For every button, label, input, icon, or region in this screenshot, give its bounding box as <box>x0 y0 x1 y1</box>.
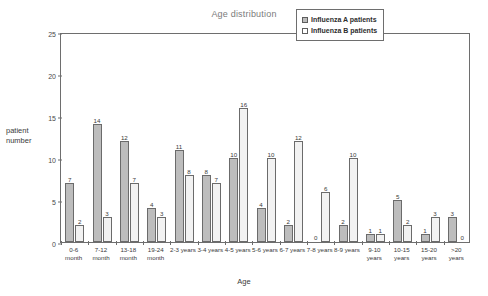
bar-influenza-b: 7 <box>130 183 139 242</box>
bar-influenza-a: 1 <box>366 234 375 242</box>
bar-value-label: 11 <box>176 143 182 150</box>
bar-influenza-a: 12 <box>120 141 129 242</box>
y-axis-tick-mark <box>58 160 62 161</box>
bar-influenza-b: 2 <box>75 225 84 242</box>
bar-value-label: 14 <box>94 117 101 124</box>
bar-influenza-a: 4 <box>147 208 156 242</box>
bar-value-label: 5 <box>396 193 399 200</box>
x-axis-category-label: 8-9 years <box>333 246 360 254</box>
x-axis-tick-mark <box>334 241 335 245</box>
x-axis-label: Age <box>0 277 488 286</box>
y-axis-label: patient number <box>6 126 54 146</box>
bar-value-label: 7 <box>133 176 136 183</box>
x-axis-category-label: 3-4 years <box>197 246 224 254</box>
bar-value-label: 7 <box>215 176 218 183</box>
bar-influenza-a: 8 <box>202 175 211 242</box>
bar-influenza-b: 10 <box>267 158 276 242</box>
bar-value-label: 2 <box>341 218 344 225</box>
legend-item-label: Influenza A patients <box>311 16 377 23</box>
age-distribution-chart: Age distribution patient number 05101520… <box>0 0 488 296</box>
bar-value-label: 16 <box>240 101 247 108</box>
x-axis-category-label: 4-5 years <box>224 246 251 254</box>
bar-value-label: 2 <box>406 218 409 225</box>
bar-value-label: 2 <box>287 218 290 225</box>
bar-value-label: 12 <box>295 134 302 141</box>
bar-value-label: 3 <box>160 210 163 217</box>
bar-value-label: 8 <box>205 168 208 175</box>
x-axis-tick-mark <box>88 241 89 245</box>
bar-influenza-b: 2 <box>403 225 412 242</box>
bar-influenza-a: 2 <box>284 225 293 242</box>
bar-influenza-b: 3 <box>431 217 440 242</box>
bar-value-label: 10 <box>268 151 275 158</box>
y-axis-tick-mark <box>58 34 62 35</box>
bar-value-label: 0 <box>314 234 317 241</box>
bar-value-label: 10 <box>350 151 357 158</box>
x-axis-tick-mark <box>362 241 363 245</box>
bar-value-label: 3 <box>433 210 436 217</box>
x-axis-tick-mark <box>252 241 253 245</box>
bar-value-label: 1 <box>369 227 372 234</box>
x-axis-category-label: 9-10 years <box>361 246 388 261</box>
x-axis-category-label: 5-6 years <box>251 246 278 254</box>
bar-value-label: 2 <box>78 218 81 225</box>
chart-title: Age distribution <box>0 9 488 19</box>
bar-influenza-a: 7 <box>65 183 74 242</box>
bar-influenza-b: 3 <box>103 217 112 242</box>
x-axis-category-label: 7-8 years <box>306 246 333 254</box>
bar-value-label: 7 <box>68 176 71 183</box>
bar-influenza-a: 4 <box>257 208 266 242</box>
x-axis-category-label: 13-18 month <box>115 246 142 261</box>
bar-value-label: 0 <box>461 234 464 241</box>
bar-value-label: 4 <box>259 201 262 208</box>
x-axis-tick-mark <box>225 241 226 245</box>
bar-value-label: 3 <box>105 210 108 217</box>
x-axis-tick-mark <box>61 241 62 245</box>
bar-value-label: 10 <box>230 151 237 158</box>
x-axis-tick-mark <box>389 241 390 245</box>
x-axis-tick-mark <box>170 241 171 245</box>
bar-influenza-a: 14 <box>93 124 102 242</box>
bar-value-label: 12 <box>121 134 128 141</box>
bar-value-label: 1 <box>379 227 382 234</box>
x-axis-tick-mark <box>116 241 117 245</box>
bar-influenza-a: 11 <box>175 150 184 242</box>
x-axis-tick-mark <box>416 241 417 245</box>
y-axis-tick-mark <box>58 202 62 203</box>
legend-item: Influenza B patients <box>302 25 377 36</box>
y-axis-tick-mark <box>58 76 62 77</box>
legend-item: Influenza A patients <box>302 14 377 25</box>
plot-area: 0510152025721431274311887101641021206210… <box>60 33 470 243</box>
bar-influenza-a: 5 <box>393 200 402 242</box>
bar-influenza-b: 1 <box>376 234 385 242</box>
bar-value-label: 3 <box>451 210 454 217</box>
x-axis-tick-mark <box>198 241 199 245</box>
bar-influenza-b: 16 <box>239 108 248 242</box>
x-axis-category-label: 7-12 month <box>87 246 114 261</box>
chart-legend: Influenza A patientsInfluenza B patients <box>296 9 384 41</box>
bar-influenza-a: 1 <box>421 234 430 242</box>
bar-value-label: 4 <box>150 201 153 208</box>
x-axis-category-label: 19-24 month <box>142 246 169 261</box>
bar-value-label: 6 <box>324 185 327 192</box>
bar-influenza-b: 3 <box>157 217 166 242</box>
x-axis-category-label: 2-3 years <box>169 246 196 254</box>
x-axis-tick-mark <box>307 241 308 245</box>
y-axis-tick-mark <box>58 118 62 119</box>
x-axis-category-label: 0-6 month <box>60 246 87 261</box>
bar-influenza-a: 10 <box>229 158 238 242</box>
bar-influenza-a: 2 <box>339 225 348 242</box>
bar-value-label: 8 <box>187 168 190 175</box>
x-axis-tick-mark <box>280 241 281 245</box>
x-axis-tick-mark <box>143 241 144 245</box>
x-axis-category-label: 15-20 years <box>415 246 442 261</box>
bar-influenza-b: 10 <box>349 158 358 242</box>
x-axis-category-label: 6-7 years <box>279 246 306 254</box>
bar-influenza-b: 8 <box>185 175 194 242</box>
bar-influenza-b: 12 <box>294 141 303 242</box>
bar-value-label: 1 <box>423 227 426 234</box>
legend-swatch-icon <box>302 28 308 34</box>
bar-influenza-b: 6 <box>321 192 330 242</box>
x-axis-category-label: >20 years <box>443 246 470 261</box>
x-axis-category-label: 10-15 years <box>388 246 415 261</box>
